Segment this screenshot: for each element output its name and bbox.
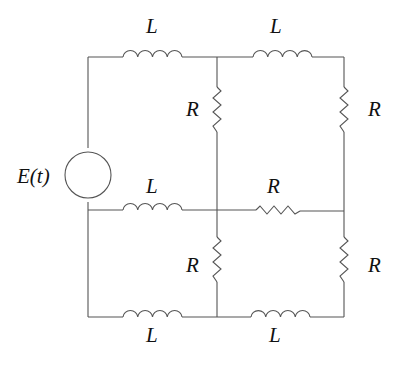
label-R5: R — [367, 253, 381, 277]
inductor-L2 — [253, 51, 312, 57]
voltage-source — [65, 152, 111, 198]
inductor-L4 — [123, 311, 182, 317]
label-R4: R — [185, 253, 199, 277]
inductor-L5 — [251, 311, 310, 317]
resistor-R2 — [340, 87, 348, 132]
label-R3: R — [266, 174, 280, 198]
resistor-R1 — [213, 87, 221, 132]
label-source: E(t) — [16, 164, 50, 188]
circuit-diagram: L L R R L R R R L L E(t) — [0, 0, 409, 365]
label-L3: L — [145, 174, 158, 198]
label-L4: L — [145, 323, 158, 347]
inductor-L1 — [123, 51, 182, 57]
label-L2: L — [269, 14, 282, 38]
resistor-R4 — [213, 237, 221, 282]
label-L1: L — [145, 14, 158, 38]
label-L5: L — [268, 323, 281, 347]
resistor-R3 — [256, 206, 300, 214]
inductor-L3 — [123, 204, 182, 210]
resistor-R5 — [340, 237, 348, 282]
label-R1: R — [185, 97, 199, 121]
label-R2: R — [367, 97, 381, 121]
